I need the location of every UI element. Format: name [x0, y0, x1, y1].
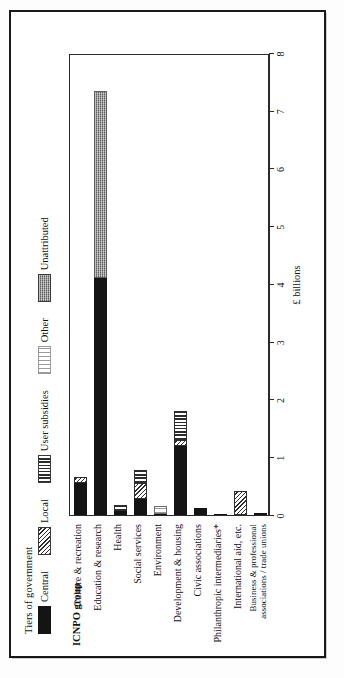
category-label: Culture & recreation: [73, 524, 84, 607]
legend-label: Local: [39, 499, 50, 523]
bar-row: [254, 53, 267, 515]
bar-segment-central: [194, 508, 207, 515]
bar-segment-central: [134, 499, 147, 515]
category-label: Business & professional associations / t…: [249, 524, 268, 648]
bar-segment-user-subsidies: [174, 411, 187, 440]
rotated-chart-wrapper: Tiers of government CentralLocalUser sub…: [11, 12, 328, 660]
category-label: Environment: [153, 524, 164, 576]
bar-row: [214, 53, 227, 515]
category-label: Philanthropic intermediaries*: [213, 524, 224, 643]
legend-items: CentralLocalUser subsidiesOtherUnattribu…: [38, 217, 51, 634]
bar-segment-central: [114, 511, 127, 515]
axis-tick-label: 4: [275, 283, 286, 288]
axis-tick-label: 5: [275, 225, 286, 230]
bar-row: [134, 53, 147, 515]
legend-item-central: Central: [38, 571, 51, 634]
axis-tick: [269, 284, 274, 285]
legend-label: Other: [39, 318, 50, 342]
category-axis-labels: Culture & recreationEducation & research…: [69, 520, 269, 648]
axis-tick-label: 8: [275, 52, 286, 57]
axis-tick-label: 1: [275, 456, 286, 461]
axis-tick: [269, 53, 274, 54]
axis-tick: [269, 342, 274, 343]
axis-tick-label: 6: [275, 167, 286, 172]
axis-tick-label: 7: [275, 109, 286, 114]
axis-tick: [269, 457, 274, 458]
legend-label: Unattributed: [39, 217, 50, 270]
legend-swatch-central-icon: [38, 606, 51, 634]
bar-row: [154, 53, 167, 515]
legend-label: Central: [39, 571, 50, 602]
plot-area: [70, 55, 268, 515]
bar-row: [94, 53, 107, 515]
plot-frame: [69, 54, 269, 516]
bar-row: [194, 53, 207, 515]
bar-segment-central: [214, 514, 227, 515]
bar-segment-unattributed: [94, 91, 107, 279]
bar-segment-user-subsidies: [134, 470, 147, 483]
bar-segment-central: [94, 278, 107, 515]
rotated-chart: Tiers of government CentralLocalUser sub…: [19, 24, 319, 648]
legend-item-user-subsidies: User subsidies: [38, 390, 51, 483]
bar-segment-other: [154, 506, 167, 514]
bar-segment-local: [174, 440, 187, 446]
legend-swatch-user-subsidies-icon: [38, 455, 51, 483]
bar-row: [74, 53, 87, 515]
bar-segment-central: [154, 514, 167, 515]
axis-tick: [269, 226, 274, 227]
category-label: Development & housing: [173, 524, 184, 622]
legend-swatch-other-icon: [38, 346, 51, 374]
scanned-figure-page: Tiers of government CentralLocalUser sub…: [0, 0, 344, 678]
category-label: International aid, etc.: [233, 524, 244, 609]
bar-row: [114, 53, 127, 515]
bar-segment-user-subsidies: [114, 505, 127, 511]
axis-tick: [269, 111, 274, 112]
bar-segment-local: [134, 483, 147, 499]
value-axis-line: [269, 54, 270, 516]
legend-item-other: Other: [38, 318, 51, 374]
category-label: Civic associations: [193, 524, 204, 597]
axis-tick-label: 2: [275, 398, 286, 403]
category-label: Social services: [133, 524, 144, 584]
stacked-bar-chart: Tiers of government CentralLocalUser sub…: [19, 24, 319, 648]
axis-tick: [269, 515, 274, 516]
bar-row: [174, 53, 187, 515]
chart-legend: Tiers of government CentralLocalUser sub…: [23, 36, 63, 636]
bar-segment-central: [174, 446, 187, 515]
bar-segment-local: [234, 491, 247, 515]
bar-segment-central: [74, 483, 87, 515]
bar-segment-local: [74, 477, 87, 483]
category-label: Education & research: [93, 524, 104, 611]
axis-tick-label: 3: [275, 340, 286, 345]
legend-swatch-local-icon: [38, 527, 51, 555]
bar-row: [234, 53, 247, 515]
bar-segment-central: [254, 513, 267, 515]
legend-title: Tiers of government: [23, 547, 34, 634]
legend-item-unattributed: Unattributed: [38, 217, 51, 302]
axis-tick: [269, 169, 274, 170]
figure-border-frame: Tiers of government CentralLocalUser sub…: [9, 10, 326, 658]
legend-item-local: Local: [38, 499, 51, 555]
value-axis-title: £ billions: [291, 265, 302, 304]
legend-swatch-unattributed-icon: [38, 274, 51, 302]
axis-tick-label: 0: [275, 514, 286, 519]
legend-label: User subsidies: [39, 390, 50, 451]
axis-tick: [269, 400, 274, 401]
category-label: Health: [113, 524, 124, 551]
